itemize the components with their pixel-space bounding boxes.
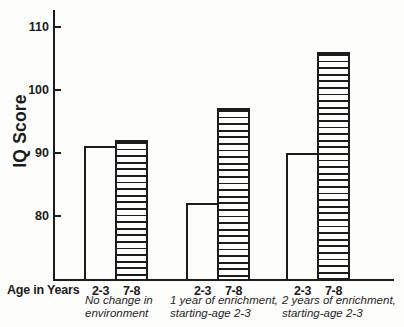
iq-enrichment-bar-chart: IQ Score Age in Years 8090100110 2-37-82… (0, 0, 404, 327)
group-caption-2: 1 year of enrichment,starting-age 2-3 (170, 294, 278, 319)
group-caption-line: 2 years of enrichment, (282, 294, 396, 307)
y-tick-label-110: 110 (16, 20, 49, 34)
bar-group2-age-2-3 (186, 203, 219, 281)
group-caption-1: No change inenvironment (85, 294, 153, 319)
y-tick-mark-90 (55, 152, 61, 154)
group-caption-line: No change in (85, 294, 153, 307)
y-tick-mark-110 (55, 26, 61, 28)
y-tick-mark-100 (55, 89, 61, 91)
y-tick-mark-80 (55, 215, 61, 217)
group-caption-line: 1 year of enrichment, (170, 294, 278, 307)
bar-group2-age-7-8 (217, 108, 250, 281)
group-caption-line: environment (85, 307, 153, 320)
group-caption-line: starting-age 2-3 (170, 307, 278, 320)
y-axis-title: IQ Score (10, 85, 30, 177)
bar-group1-age-2-3 (84, 146, 117, 281)
y-axis-line (53, 10, 55, 281)
bar-group3-age-7-8 (317, 52, 350, 281)
group-caption-3: 2 years of enrichment,starting-age 2-3 (282, 294, 396, 319)
x-axis-title: Age in Years (7, 283, 79, 297)
y-tick-label-100: 100 (16, 83, 49, 97)
y-tick-label-90: 90 (16, 146, 49, 160)
bar-group3-age-2-3 (286, 153, 319, 282)
bar-group1-age-7-8 (115, 140, 148, 281)
y-tick-label-80: 80 (16, 209, 49, 223)
group-caption-line: starting-age 2-3 (282, 307, 396, 320)
